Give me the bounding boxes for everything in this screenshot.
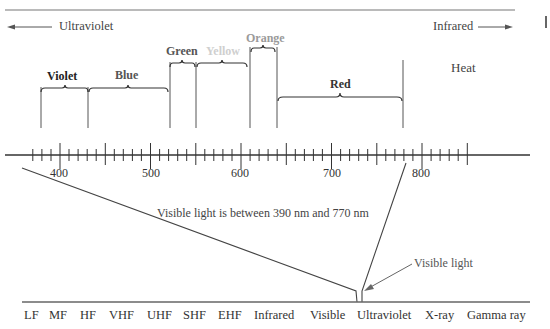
brace-blue	[89, 85, 168, 92]
tick-label-400: 400	[50, 167, 68, 179]
heat-label: Heat	[451, 61, 476, 74]
band-label-orange: Orange	[246, 32, 285, 44]
clipped-side-text	[545, 16, 547, 28]
band-label-blue: Blue	[115, 69, 138, 81]
brace-red	[278, 93, 402, 101]
infrared-arrow-icon	[478, 25, 513, 30]
brace-orange	[251, 45, 275, 52]
brace-violet	[41, 85, 88, 92]
brace-green	[170, 60, 195, 67]
infrared-direction-label: Infrared	[433, 20, 473, 33]
spectrum-label-gamma-ray: Gamma ray	[467, 309, 526, 322]
spectrum-label-ultraviolet: Ultraviolet	[357, 309, 411, 322]
tick-label-500: 500	[142, 167, 160, 179]
tick-label-700: 700	[323, 167, 341, 179]
brace-yellow	[197, 60, 247, 67]
tick-label-600: 600	[231, 167, 249, 179]
spectrum-label-mf: MF	[49, 309, 67, 322]
visible-light-label: Visible light	[414, 257, 473, 269]
spectrum-label-vhf: VHF	[109, 309, 134, 322]
spectrum-label-shf: SHF	[183, 309, 206, 322]
spectrum-label-hf: HF	[80, 309, 96, 322]
visible-range-note: Visible light is between 390 nm and 770 …	[157, 207, 369, 219]
diagram-lines	[0, 0, 550, 329]
spectrum-label-uhf: UHF	[147, 309, 172, 322]
band-label-violet: Violet	[47, 70, 77, 82]
visible-funnel	[22, 163, 406, 302]
band-label-yellow: Yellow	[206, 45, 240, 57]
spectrum-label-xray: X-ray	[425, 309, 454, 322]
wavelength-scale	[5, 143, 530, 169]
visible-light-pointer	[364, 264, 412, 291]
band-label-red: Red	[330, 78, 351, 90]
ultraviolet-direction-label: Ultraviolet	[59, 20, 113, 33]
band-label-green: Green	[166, 45, 198, 57]
tick-label-800: 800	[412, 167, 430, 179]
ultraviolet-arrow-icon	[7, 25, 52, 30]
spectrum-label-lf: LF	[24, 309, 39, 322]
spectrum-label-infrared: Infrared	[254, 309, 294, 322]
spectrum-label-ehf: EHF	[218, 309, 242, 322]
spectrum-label-visible: Visible	[310, 309, 345, 322]
